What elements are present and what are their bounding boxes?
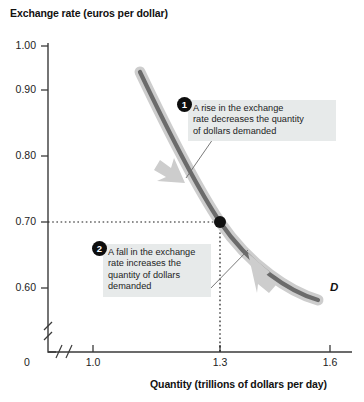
x-tick-label-1-0: 1.0 [73,356,113,368]
annotation-callout-1: A rise in the exchange rate decreases th… [188,100,336,141]
demand-curve-label: D [330,281,338,293]
y-tick-label-0-60: 0.60 [4,281,36,293]
x-axis-title: Quantity (trillions of dollars per day) [150,378,327,390]
annotation-callout-2: A fall in the exchange rate increases th… [103,244,211,297]
equilibrium-point-marker [214,216,226,228]
axis-corner-connector [48,336,56,352]
leader-line-callout-1 [186,139,213,178]
y-tick-label-0-90: 0.90 [4,83,36,95]
annotation-badge-2: 2 [92,241,107,256]
y-tick-label-0-70: 0.70 [4,215,36,227]
chart-plot-area [0,0,364,402]
y-tick-label-1-00: 1.00 [4,39,36,51]
annotation-badge-1: 1 [177,97,192,112]
origin-label: 0 [20,356,34,368]
x-tick-label-1-3: 1.3 [200,356,240,368]
leader-line-callout-2 [209,250,248,290]
x-tick-label-1-6: 1.6 [310,356,350,368]
exchange-rate-demand-chart: Exchange rate (euros per dollar) [0,0,364,402]
y-tick-label-0-80: 0.80 [4,149,36,161]
